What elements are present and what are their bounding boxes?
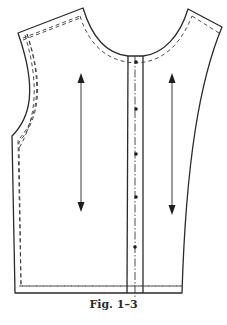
- arrow-down-icon: [169, 205, 176, 215]
- center-front-band-left: [127, 56, 128, 293]
- button-mark-1: [134, 60, 138, 64]
- arrow-up-icon: [78, 73, 85, 83]
- button-mark-3: [134, 152, 138, 156]
- button-mark-4: [134, 195, 138, 199]
- cutting-line-outline: [12, 8, 222, 293]
- grainline-arrow-left: [78, 73, 85, 212]
- pattern-diagram: [0, 0, 227, 325]
- arrow-up-icon: [169, 73, 176, 83]
- seam-allowance-shoulder-left: [23, 18, 80, 40]
- seam-allowance-left: [18, 16, 182, 286]
- button-mark-5: [133, 245, 137, 249]
- arrow-down-icon: [78, 202, 85, 212]
- figure-caption: Fig. 1–3: [0, 298, 227, 311]
- grainline-arrow-right: [169, 73, 176, 215]
- button-mark-2: [134, 107, 138, 111]
